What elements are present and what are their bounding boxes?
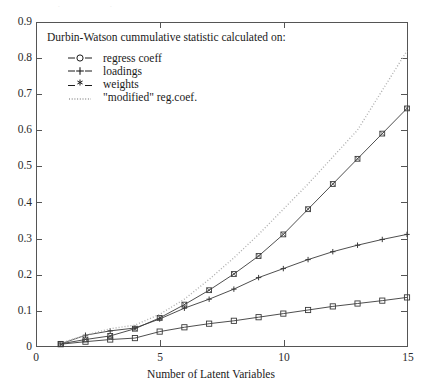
y-tick-label: 0.4 (2, 197, 32, 209)
y-tick-label: 0 (2, 341, 32, 353)
x-tick-label: 5 (145, 352, 175, 364)
y-tick-label: 0.9 (2, 16, 32, 28)
marker-asterisk-icon (67, 78, 103, 90)
legend-label: weights (103, 78, 139, 90)
legend: Durbin-Watson cummulative statistic calc… (47, 30, 297, 103)
x-tick-label: 15 (393, 352, 422, 364)
series-line (61, 108, 407, 343)
y-tick-label: 0.3 (2, 233, 32, 245)
legend-item-modified-reg-coef: "modified" reg.coef. (67, 90, 297, 103)
scan-artifact: . (110, 1, 112, 9)
y-tick-label: 0.1 (2, 305, 32, 317)
x-tick-label: 10 (269, 352, 299, 364)
durbin-watson-line-chart: . . 0.9 0.8 0.7 0.6 0.5 0.4 0.3 0.2 0.1 … (0, 0, 422, 392)
legend-item-weights: weights (67, 77, 297, 90)
y-tick-label: 0.8 (2, 52, 32, 64)
marker-circle-icon (67, 52, 103, 64)
y-tick-label: 0.2 (2, 269, 32, 281)
y-tick-label: 0.6 (2, 124, 32, 136)
scan-artifact: . (58, 1, 60, 9)
y-tick-label: 0.7 (2, 88, 32, 100)
y-tick-label: 0.5 (2, 160, 32, 172)
legend-label: regress coeff (103, 52, 162, 64)
legend-item-loadings: loadings (67, 64, 297, 77)
legend-label: loadings (103, 65, 142, 77)
x-tick-label: 0 (21, 352, 51, 364)
legend-items: regress coeff loadings (67, 51, 297, 103)
legend-item-regress-coeff: regress coeff (67, 51, 297, 64)
legend-label: "modified" reg.coef. (103, 91, 197, 103)
marker-plus-icon (67, 65, 103, 77)
legend-title: Durbin-Watson cummulative statistic calc… (47, 30, 297, 44)
x-axis-title: Number of Latent Variables (0, 368, 422, 380)
marker-dotted-line-icon (67, 91, 103, 103)
